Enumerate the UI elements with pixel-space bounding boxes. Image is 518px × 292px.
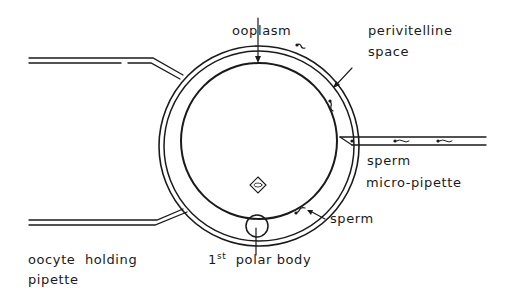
sperm-squiggle <box>396 140 409 142</box>
zona-pellucida-outer <box>159 46 359 246</box>
label-sperm: sperm <box>330 211 374 227</box>
nucleus-diamond-icon <box>250 177 266 193</box>
zona-pellucida-inner <box>164 51 354 241</box>
ooplasm-membrane <box>181 63 337 219</box>
label-sperm-pipette-1: sperm <box>367 153 411 169</box>
label-ooplasm: ooplasm <box>232 23 291 39</box>
polar-body-sup: st <box>217 251 226 261</box>
label-sperm-pipette-2: micro-pipette <box>366 175 461 191</box>
label-perivitelline: perivitelline <box>368 23 452 39</box>
label-space: space <box>368 44 409 60</box>
holding-pipette-bottom <box>29 209 187 225</box>
label-polar-body: 1st polar body <box>208 248 311 268</box>
holding-pipette-top <box>29 58 183 79</box>
sperm-squiggle <box>439 140 452 142</box>
label-holding-pipette-2: pipette <box>28 272 79 288</box>
perivitelline-arrow <box>337 68 352 84</box>
ooplasm-arrowhead <box>255 56 261 63</box>
polar-body-ordinal: 1 <box>208 252 217 267</box>
sperm-micro-pipette <box>340 137 486 145</box>
label-holding-pipette-1: oocyte holding <box>28 252 137 268</box>
polar-body-text: polar body <box>236 252 311 267</box>
